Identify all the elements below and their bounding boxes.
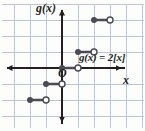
equation-label: g(x) = 2[x] bbox=[79, 52, 125, 63]
open-endpoint bbox=[59, 81, 65, 87]
x-axis-label: x bbox=[123, 74, 129, 86]
y-axis-label: g(x) bbox=[36, 2, 56, 14]
open-endpoint bbox=[43, 97, 49, 103]
closed-endpoint bbox=[43, 81, 49, 87]
graph-canvas bbox=[0, 0, 145, 131]
open-endpoint bbox=[75, 65, 81, 71]
open-endpoint bbox=[107, 17, 113, 23]
step-function-figure: g(x) O x g(x) = 2[x] bbox=[0, 0, 145, 131]
closed-endpoint bbox=[27, 97, 33, 103]
grid-lines bbox=[2, 4, 144, 128]
origin-label: O bbox=[58, 67, 67, 79]
closed-endpoint bbox=[91, 17, 97, 23]
